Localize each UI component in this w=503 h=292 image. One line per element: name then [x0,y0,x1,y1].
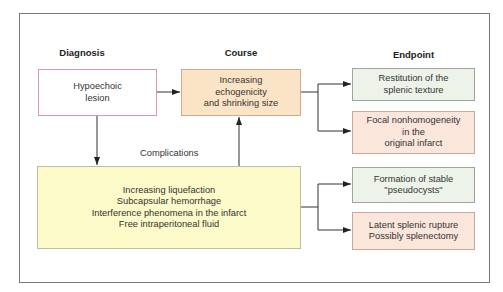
connector-arrows [0,0,503,292]
